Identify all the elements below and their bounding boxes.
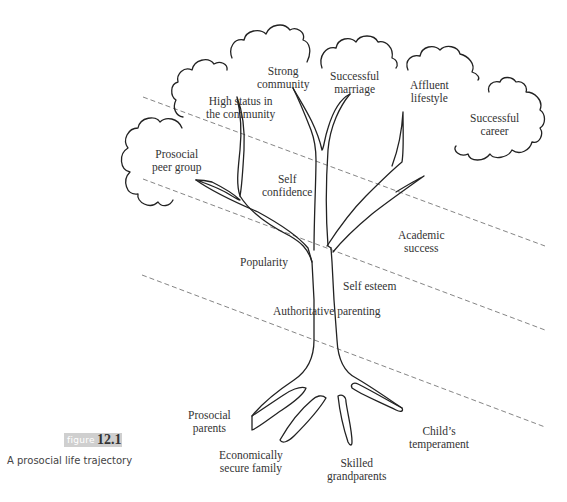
- label-line: Academic: [398, 229, 445, 242]
- label-prosocial-peer-group: Prosocial peer group: [152, 148, 202, 174]
- tree-trunk-left-edge-icon: [196, 180, 314, 416]
- label-skilled-grandparents: Skilled grandparents: [327, 457, 386, 483]
- label-successful-marriage: Successful marriage: [330, 70, 379, 96]
- label-line: Prosocial: [188, 409, 231, 422]
- label-line: Strong: [257, 65, 309, 78]
- label-authoritative-parenting: Authoritative parenting: [273, 305, 381, 318]
- figure-caption: A prosocial life trajectory: [7, 455, 132, 466]
- cloud-successful-marriage-icon: [321, 36, 397, 68]
- root-skilled-grandparents-icon: [338, 395, 352, 445]
- label-line: career: [470, 125, 519, 138]
- label-economically-secure-family: Economically secure family: [219, 449, 283, 475]
- label-line: parents: [188, 422, 231, 435]
- label-academic-success: Academic success: [398, 229, 445, 255]
- label-line: community: [257, 78, 309, 91]
- label-line: secure family: [219, 462, 283, 475]
- root-economic-family-icon: [280, 396, 326, 442]
- separator-line-3: [142, 275, 545, 427]
- figure-number: 12.1: [97, 432, 122, 448]
- cloud-affluent-lifestyle-icon: [407, 47, 479, 80]
- label-self-esteem: Self esteem: [343, 280, 396, 293]
- branch-center-left-icon: [293, 88, 316, 250]
- root-prosocial-parents-icon: [252, 387, 306, 430]
- label-successful-career: Successful career: [470, 112, 519, 138]
- branch-center-right-icon: [327, 94, 351, 248]
- label-prosocial-parents: Prosocial parents: [188, 409, 231, 435]
- label-line: Self: [262, 173, 312, 186]
- label-line: success: [398, 242, 445, 255]
- branch-left-main-icon: [240, 196, 312, 262]
- label-line: Skilled: [327, 457, 386, 470]
- label-line: grandparents: [327, 470, 386, 483]
- figure-word: figure: [67, 435, 95, 445]
- branch-center-left-inner-icon: [293, 88, 350, 150]
- label-line: Successful: [330, 70, 379, 83]
- label-line: lifestyle: [410, 92, 449, 105]
- label-line: High status in: [206, 95, 275, 108]
- label-childs-temperament: Child’s temperament: [409, 425, 469, 451]
- label-line: the community: [206, 108, 275, 121]
- label-self-confidence: Self confidence: [262, 173, 312, 199]
- tree-diagram: Prosocial peer group High status in the …: [0, 0, 567, 502]
- label-high-status: High status in the community: [206, 95, 275, 121]
- root-childs-temperament-icon: [351, 383, 402, 411]
- label-line: Successful: [470, 112, 519, 125]
- label-line: peer group: [152, 161, 202, 174]
- label-line: marriage: [330, 83, 379, 96]
- figure-number-tag: figure 12.1: [64, 433, 122, 447]
- label-line: temperament: [409, 438, 469, 451]
- label-line: Economically: [219, 449, 283, 462]
- dashed-separators: [142, 97, 545, 427]
- label-line: confidence: [262, 186, 312, 199]
- label-line: Child’s: [409, 425, 469, 438]
- branch-left-peer-icon: [196, 180, 240, 200]
- label-line: Prosocial: [152, 148, 202, 161]
- label-popularity: Popularity: [240, 256, 288, 269]
- label-line: Affluent: [410, 79, 449, 92]
- label-affluent-lifestyle: Affluent lifestyle: [410, 79, 449, 105]
- label-strong-community: Strong community: [257, 65, 309, 91]
- cloud-strong-community-icon: [231, 25, 310, 62]
